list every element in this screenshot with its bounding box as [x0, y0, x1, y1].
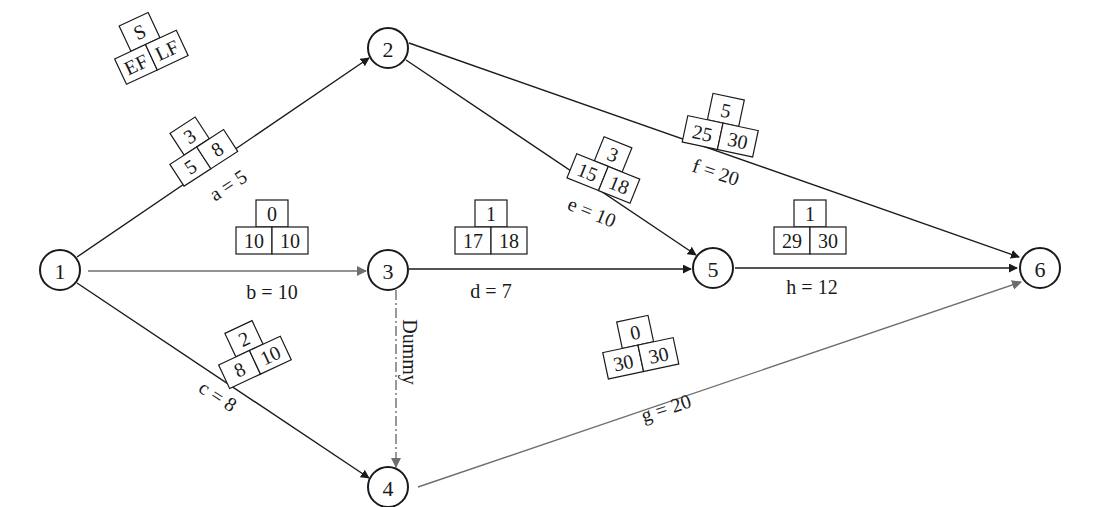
node-label: 6: [1035, 257, 1046, 282]
edge-c: [77, 283, 369, 478]
activity-g-box: 0 30 30: [597, 311, 679, 379]
node-1: 1: [40, 250, 80, 290]
node-label: 5: [708, 257, 719, 282]
node-6: 6: [1020, 248, 1060, 288]
node-label: 1: [55, 259, 66, 284]
activity-h-box: 1 29 30: [774, 200, 846, 254]
node-label: 3: [383, 259, 394, 284]
ef-value: 17: [463, 230, 483, 252]
activity-f-box: 5 25 30: [682, 89, 764, 157]
activity-c-box: 2 8 10: [208, 313, 292, 389]
activity-h-label: h = 12: [786, 276, 837, 298]
network-diagram: S EF LF 3 5 8 a = 5 0 10 10 b = 10 2 8 1…: [0, 0, 1105, 507]
node-4: 4: [368, 467, 408, 507]
node-5: 5: [693, 248, 733, 288]
activity-f-label: f = 20: [690, 154, 742, 190]
slack-value: 1: [805, 203, 815, 225]
lf-value: 30: [818, 230, 838, 252]
node-label: 4: [383, 476, 394, 501]
activity-b-label: b = 10: [246, 281, 297, 303]
slack-value: 0: [267, 203, 277, 225]
activity-a-label: a = 5: [205, 165, 251, 205]
activity-g-label: g = 20: [638, 390, 694, 428]
dummy-label: Dummy: [398, 319, 421, 385]
lf-value: 18: [499, 230, 519, 252]
edge-e: [406, 60, 696, 255]
activity-d-label: d = 7: [470, 280, 511, 302]
ef-value: 29: [782, 230, 802, 252]
edges: [77, 43, 1021, 487]
node-2: 2: [368, 28, 408, 68]
activity-d-box: 1 17 18: [455, 200, 527, 254]
node-label: 2: [383, 37, 394, 62]
activity-b-box: 0 10 10: [236, 200, 308, 254]
ef-value: 10: [244, 230, 264, 252]
lf-value: 10: [280, 230, 300, 252]
slack-value: 1: [486, 203, 496, 225]
node-3: 3: [368, 250, 408, 290]
legend-box: S EF LF: [103, 5, 188, 84]
activity-e-box: 3 15 18: [567, 130, 650, 204]
edge-g: [418, 282, 1021, 487]
